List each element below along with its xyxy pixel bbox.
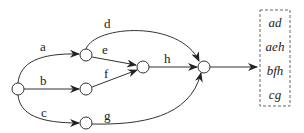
node-1 <box>80 49 92 61</box>
path-aeh: aeh <box>266 39 285 54</box>
edge-label-b: b <box>40 73 47 88</box>
node-4 <box>137 61 149 73</box>
edge-c <box>18 95 79 123</box>
edge-e <box>92 57 136 65</box>
edge-label-d: d <box>104 16 111 31</box>
edge-label-c: c <box>41 105 47 120</box>
path-ad: ad <box>269 15 283 30</box>
edge-label-e: e <box>102 42 108 57</box>
path-diagram: a b c d e f g h ad aeh bfh cg <box>0 0 304 133</box>
node-3 <box>80 117 92 129</box>
edge-label-a: a <box>40 39 46 54</box>
path-cg: cg <box>269 87 282 102</box>
node-end <box>198 61 210 73</box>
node-2 <box>80 83 92 95</box>
path-bfh: bfh <box>267 63 284 78</box>
edge-a <box>18 54 79 83</box>
edge-label-g: g <box>104 108 111 123</box>
edge-label-f: f <box>104 66 109 81</box>
node-start <box>12 83 24 95</box>
edge-f <box>92 70 137 87</box>
edge-label-h: h <box>164 51 171 66</box>
